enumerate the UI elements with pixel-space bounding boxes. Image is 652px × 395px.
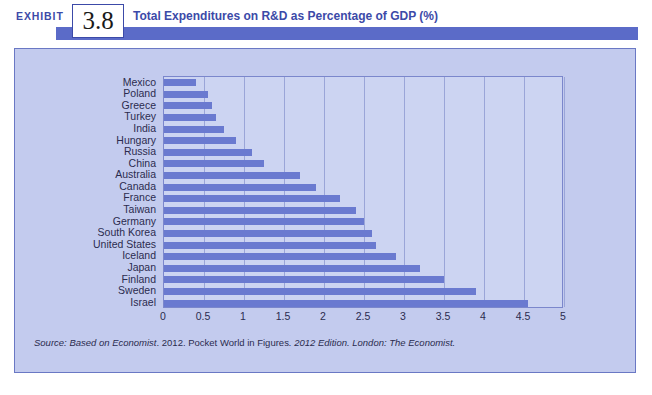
bar-australia bbox=[164, 172, 300, 179]
source-segment: Pocket World in Figures bbox=[188, 337, 289, 348]
category-axis-labels: MexicoPolandGreeceTurkeyIndiaHungaryRuss… bbox=[15, 76, 161, 308]
bar-row bbox=[164, 274, 562, 286]
bar-france bbox=[164, 195, 340, 202]
bar-poland bbox=[164, 91, 208, 98]
category-label-row: Greece bbox=[15, 99, 161, 111]
category-label-row: Mexico bbox=[15, 76, 161, 88]
category-label-iceland: Iceland bbox=[122, 250, 156, 261]
category-label-row: Taiwan bbox=[15, 204, 161, 216]
category-label-china: China bbox=[129, 158, 156, 169]
bar-united-states bbox=[164, 242, 376, 249]
bar-row bbox=[164, 263, 562, 275]
bar-row bbox=[164, 158, 562, 170]
bar-row bbox=[164, 112, 562, 124]
chart-panel: MexicoPolandGreeceTurkeyIndiaHungaryRuss… bbox=[14, 48, 636, 373]
bar-taiwan bbox=[164, 207, 356, 214]
category-label-canada: Canada bbox=[119, 181, 156, 192]
exhibit-number-box: 3.8 bbox=[72, 4, 124, 38]
x-tick-2: 2 bbox=[320, 310, 326, 322]
category-label-australia: Australia bbox=[115, 169, 156, 180]
bar-sweden bbox=[164, 288, 476, 295]
bar-canada bbox=[164, 184, 316, 191]
x-tick-4-5: 4.5 bbox=[516, 310, 531, 322]
exhibit-label: EXHIBIT bbox=[16, 10, 64, 22]
x-tick-3-5: 3.5 bbox=[436, 310, 451, 322]
header-color-band bbox=[56, 27, 638, 40]
bar-russia bbox=[164, 149, 252, 156]
category-label-hungary: Hungary bbox=[116, 135, 156, 146]
source-segment: . 2012. bbox=[157, 337, 189, 348]
bar-row bbox=[164, 77, 562, 89]
x-tick-0-5: 0.5 bbox=[196, 310, 211, 322]
x-tick-5: 5 bbox=[560, 310, 566, 322]
category-label-row: Germany bbox=[15, 215, 161, 227]
x-tick-4: 4 bbox=[480, 310, 486, 322]
bar-greece bbox=[164, 102, 212, 109]
bar-row bbox=[164, 147, 562, 159]
x-tick-1-5: 1.5 bbox=[276, 310, 291, 322]
bar-row bbox=[164, 135, 562, 147]
bar-india bbox=[164, 126, 224, 133]
category-label-russia: Russia bbox=[124, 146, 156, 157]
category-label-united-states: United States bbox=[93, 239, 156, 250]
category-label-israel: Israel bbox=[130, 297, 156, 308]
category-label-france: France bbox=[123, 192, 156, 203]
source-note: Source: Based on Economist. 2012. Pocket… bbox=[34, 337, 455, 348]
category-label-row: Finland bbox=[15, 273, 161, 285]
bar-row bbox=[164, 251, 562, 263]
category-label-sweden: Sweden bbox=[118, 285, 156, 296]
bar-finland bbox=[164, 276, 444, 283]
category-label-row: Iceland bbox=[15, 250, 161, 262]
bar-row bbox=[164, 123, 562, 135]
bar-row bbox=[164, 228, 562, 240]
bar-row bbox=[164, 205, 562, 217]
bar-series bbox=[164, 77, 562, 307]
plot-area bbox=[163, 76, 563, 308]
bar-row bbox=[164, 170, 562, 182]
bar-mexico bbox=[164, 79, 196, 86]
x-tick-3: 3 bbox=[400, 310, 406, 322]
bar-row bbox=[164, 89, 562, 101]
bar-china bbox=[164, 160, 264, 167]
value-axis-labels: 00.511.522.533.544.55 bbox=[163, 310, 563, 326]
exhibit-number: 3.8 bbox=[82, 8, 113, 35]
bar-row bbox=[164, 100, 562, 112]
category-label-row: France bbox=[15, 192, 161, 204]
x-tick-2-5: 2.5 bbox=[356, 310, 371, 322]
bar-hungary bbox=[164, 137, 236, 144]
bar-iceland bbox=[164, 253, 396, 260]
page-title: Total Expenditures on R&D as Percentage … bbox=[133, 9, 438, 23]
category-label-japan: Japan bbox=[127, 262, 156, 273]
category-label-mexico: Mexico bbox=[123, 77, 156, 88]
source-italic-segment: Source: Based on Economist bbox=[34, 337, 157, 348]
category-label-south-korea: South Korea bbox=[98, 227, 156, 238]
exhibit-header: EXHIBIT 3.8 Total Expenditures on R&D as… bbox=[0, 0, 652, 52]
bar-row bbox=[164, 216, 562, 228]
bar-japan bbox=[164, 265, 420, 272]
gridline bbox=[564, 77, 565, 307]
category-label-row: Australia bbox=[15, 169, 161, 181]
category-label-row: Turkey bbox=[15, 111, 161, 123]
category-label-greece: Greece bbox=[122, 100, 156, 111]
category-label-row: South Korea bbox=[15, 227, 161, 239]
category-label-row: Japan bbox=[15, 262, 161, 274]
category-label-poland: Poland bbox=[123, 88, 156, 99]
bar-turkey bbox=[164, 114, 216, 121]
bar-row bbox=[164, 286, 562, 298]
category-label-row: Sweden bbox=[15, 285, 161, 297]
category-label-germany: Germany bbox=[113, 216, 156, 227]
bar-israel bbox=[164, 300, 528, 307]
bar-row bbox=[164, 239, 562, 251]
category-label-row: China bbox=[15, 157, 161, 169]
category-label-india: India bbox=[133, 123, 156, 134]
x-tick-0: 0 bbox=[160, 310, 166, 322]
category-label-row: Canada bbox=[15, 180, 161, 192]
x-tick-1: 1 bbox=[240, 310, 246, 322]
category-label-row: India bbox=[15, 122, 161, 134]
bar-south-korea bbox=[164, 230, 372, 237]
source-italic-segment: . 2012 Edition. London: The Economist. bbox=[289, 337, 455, 348]
category-label-row: United States bbox=[15, 238, 161, 250]
category-label-row: Israel bbox=[15, 296, 161, 308]
bar-row bbox=[164, 181, 562, 193]
category-label-row: Hungary bbox=[15, 134, 161, 146]
